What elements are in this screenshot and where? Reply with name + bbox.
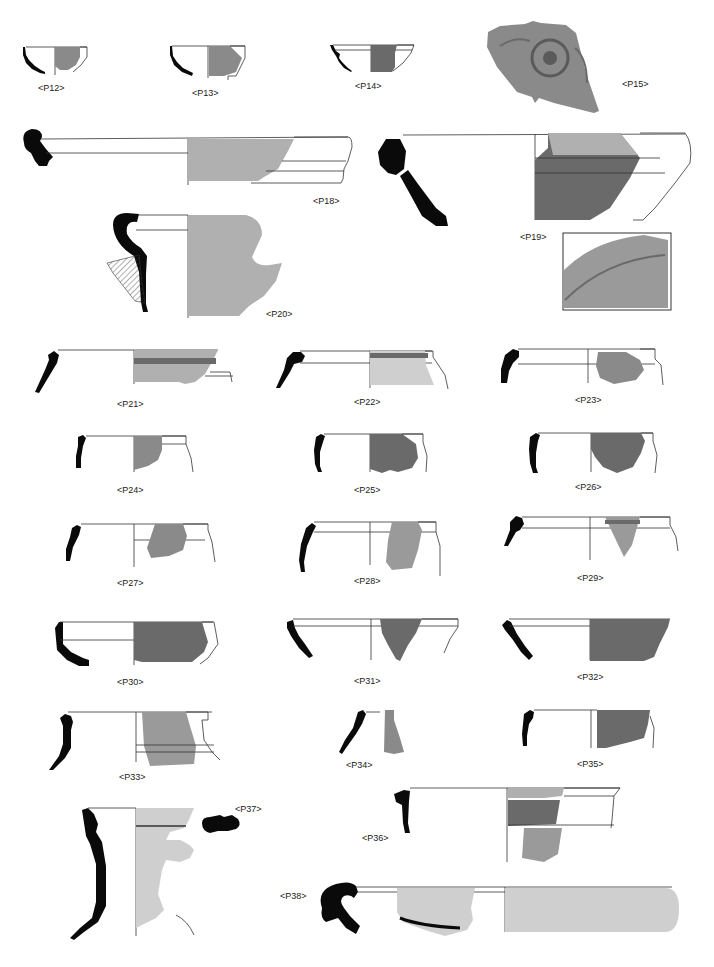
sherd-p32 <box>502 619 670 661</box>
sherd-p31 <box>287 619 458 661</box>
label-p38: <P38> <box>280 891 307 901</box>
label-p33: <P33> <box>119 772 146 782</box>
label-p34: <P34> <box>346 760 373 770</box>
sherd-p18 <box>23 129 352 185</box>
label-p32: <P32> <box>577 672 604 682</box>
label-p31: <P31> <box>354 676 381 686</box>
label-p22: <P22> <box>354 397 381 407</box>
sherd-p23 <box>501 349 663 385</box>
sherd-p36 <box>394 788 620 862</box>
label-p28: <P28> <box>354 576 381 586</box>
label-p37: <P37> <box>235 804 262 814</box>
label-p29: <P29> <box>577 573 604 583</box>
sherd-p14 <box>330 45 414 72</box>
sherd-p35 <box>522 710 654 748</box>
label-p21: <P21> <box>117 399 144 409</box>
sherd-p38 <box>321 882 679 936</box>
sherd-p24 <box>76 435 193 472</box>
sherd-p29 <box>504 516 678 560</box>
label-p15: <P15> <box>622 79 649 89</box>
label-p26: <P26> <box>575 482 602 492</box>
sherd-p19 <box>378 133 691 310</box>
label-p30: <P30> <box>117 677 144 687</box>
sherd-p26 <box>529 433 657 473</box>
sherd-p33 <box>49 712 220 770</box>
label-p25: <P25> <box>354 485 381 495</box>
sherd-p30 <box>55 622 218 666</box>
label-p36: <P36> <box>362 833 389 843</box>
label-p12: <P12> <box>38 83 65 93</box>
sherd-p20 <box>107 213 282 318</box>
sherd-p27 <box>66 524 215 567</box>
label-p35: <P35> <box>577 759 604 769</box>
sherd-p28 <box>299 522 440 576</box>
label-p18: <P18> <box>313 196 340 206</box>
sherd-p25 <box>314 434 427 473</box>
label-p20: <P20> <box>266 309 293 319</box>
sherd-p15-photo <box>487 21 599 113</box>
sherd-p12 <box>23 47 87 75</box>
sherd-p13 <box>170 46 245 80</box>
label-p24: <P24> <box>117 485 144 495</box>
sherd-p22 <box>276 351 448 389</box>
sherd-p34 <box>339 710 404 754</box>
label-p14: <P14> <box>355 81 382 91</box>
label-p23: <P23> <box>575 395 602 405</box>
label-p27: <P27> <box>117 578 144 588</box>
label-p19: <P19> <box>520 232 547 242</box>
sherd-p37 <box>70 808 240 940</box>
sherd-p21 <box>35 350 233 393</box>
pottery-plate <box>0 0 714 967</box>
label-p13: <P13> <box>192 88 219 98</box>
